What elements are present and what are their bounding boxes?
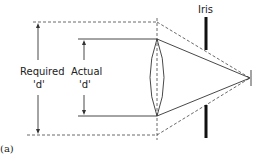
required-label: Required [20, 66, 65, 77]
actual-arrow-up-head [82, 40, 86, 45]
actual-bottom-ray [157, 78, 250, 116]
actual-top-ray [157, 39, 250, 78]
iris-bottom-blade [205, 105, 208, 138]
required-bottom-ray [157, 78, 250, 135]
iris-top-blade [205, 17, 208, 50]
actual-label: Actual [71, 66, 102, 77]
iris-label: Iris [198, 4, 213, 15]
figure-caption: (a) [0, 143, 14, 154]
required-arrow-up-head [36, 23, 40, 28]
actual-d-label: 'd' [79, 79, 91, 90]
required-d-label: 'd' [33, 79, 45, 90]
required-arrow-down-head [36, 129, 40, 134]
required-top-ray [157, 22, 250, 78]
actual-arrow-down-head [82, 110, 86, 115]
lens-iris-diagram: Iris Required 'd' Actual 'd' (a) [0, 0, 266, 154]
